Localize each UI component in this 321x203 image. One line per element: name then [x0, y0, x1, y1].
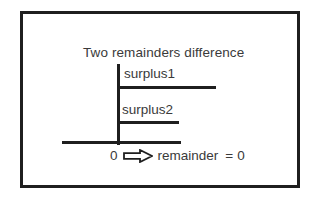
surplus2-underline [117, 121, 179, 124]
surplus1-underline [117, 86, 216, 89]
vertical-trunk-line [117, 64, 120, 145]
branch-label-surplus2: surplus2 [122, 102, 173, 117]
branch-label-surplus1: surplus1 [124, 66, 175, 81]
bottom-annotation-row: 0 remainder = 0 [110, 148, 245, 163]
baseline [62, 141, 181, 144]
equals-sign: = [225, 148, 233, 163]
result-label: remainder [158, 148, 219, 163]
diagram-canvas: Two remainders difference surplus1 surpl… [0, 0, 321, 203]
diagram-title: Two remainders difference [83, 45, 244, 60]
right-block-arrow-icon [123, 149, 153, 163]
start-value: 0 [110, 148, 118, 163]
result-value: 0 [237, 148, 245, 163]
